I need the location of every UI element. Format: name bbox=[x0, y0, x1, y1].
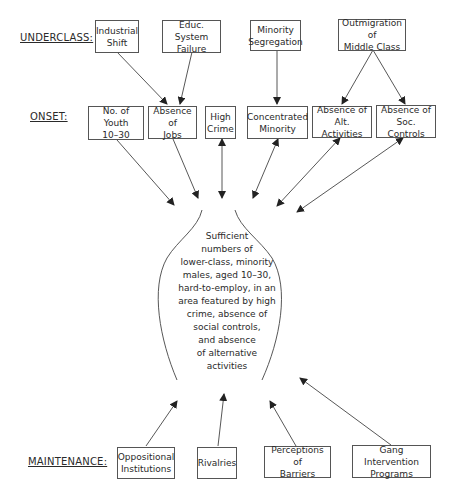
box-educ-system-failure: Educ. System Failure bbox=[162, 20, 221, 53]
box-industrial-shift: Industrial Shift bbox=[95, 20, 139, 53]
box-concentrated-minority: Concentrated Minority bbox=[247, 106, 308, 139]
level-label-onset: ONSET: bbox=[30, 111, 68, 122]
box-gang-intervention-programs: Gang Intervention Programs bbox=[352, 445, 431, 478]
box-absence-of-jobs: Absence of Jobs bbox=[148, 106, 197, 139]
box-oppositional-institutions: Oppositional Institutions bbox=[117, 447, 175, 479]
box-absence-alt-activities: Absence of Alt. Activities bbox=[312, 106, 372, 138]
box-no-of-youth: No. of Youth 10–30 bbox=[88, 106, 144, 140]
level-label-underclass: UNDERCLASS: bbox=[20, 32, 93, 43]
box-rivalries: Rivalries bbox=[197, 447, 237, 479]
center-outcome-text: Sufficient numbers of lower-class, minor… bbox=[157, 230, 297, 373]
box-absence-soc-controls: Absence of Soc. Controls bbox=[376, 105, 436, 138]
box-minority-segregation: Minority Segregation bbox=[250, 20, 301, 51]
box-perceptions-of-barriers: Perceptions of Barriers bbox=[264, 446, 331, 478]
box-outmigration-middle-class: Outmigration of Middle Class bbox=[338, 19, 406, 51]
level-label-maintenance: MAINTENANCE: bbox=[28, 456, 107, 467]
box-high-crime: High Crime bbox=[205, 106, 236, 139]
